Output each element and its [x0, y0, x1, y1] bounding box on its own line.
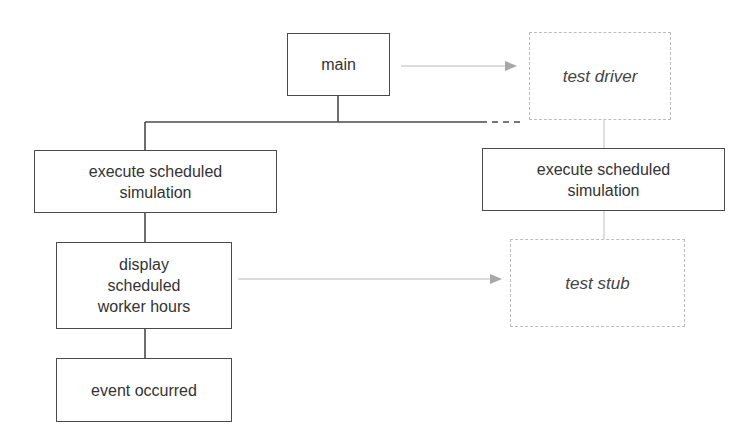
node-test-driver: test driver [529, 32, 671, 120]
node-label: test stub [565, 273, 629, 294]
node-label: main [321, 54, 356, 75]
node-label: event occurred [91, 380, 197, 401]
node-label: display scheduled worker hours [98, 254, 190, 317]
node-event-occurred: event occurred [56, 358, 232, 422]
node-label: execute scheduled simulation [89, 161, 222, 203]
node-display-scheduled-worker-hours: display scheduled worker hours [56, 242, 232, 329]
node-test-stub: test stub [510, 239, 685, 327]
arrowhead-icon [490, 274, 502, 284]
node-execute-scheduled-simulation-left: execute scheduled simulation [34, 150, 277, 213]
node-execute-scheduled-simulation-right: execute scheduled simulation [482, 148, 725, 211]
node-main: main [287, 33, 390, 96]
node-label: test driver [563, 66, 638, 87]
arrowhead-icon [505, 61, 517, 71]
node-label: execute scheduled simulation [537, 159, 670, 201]
